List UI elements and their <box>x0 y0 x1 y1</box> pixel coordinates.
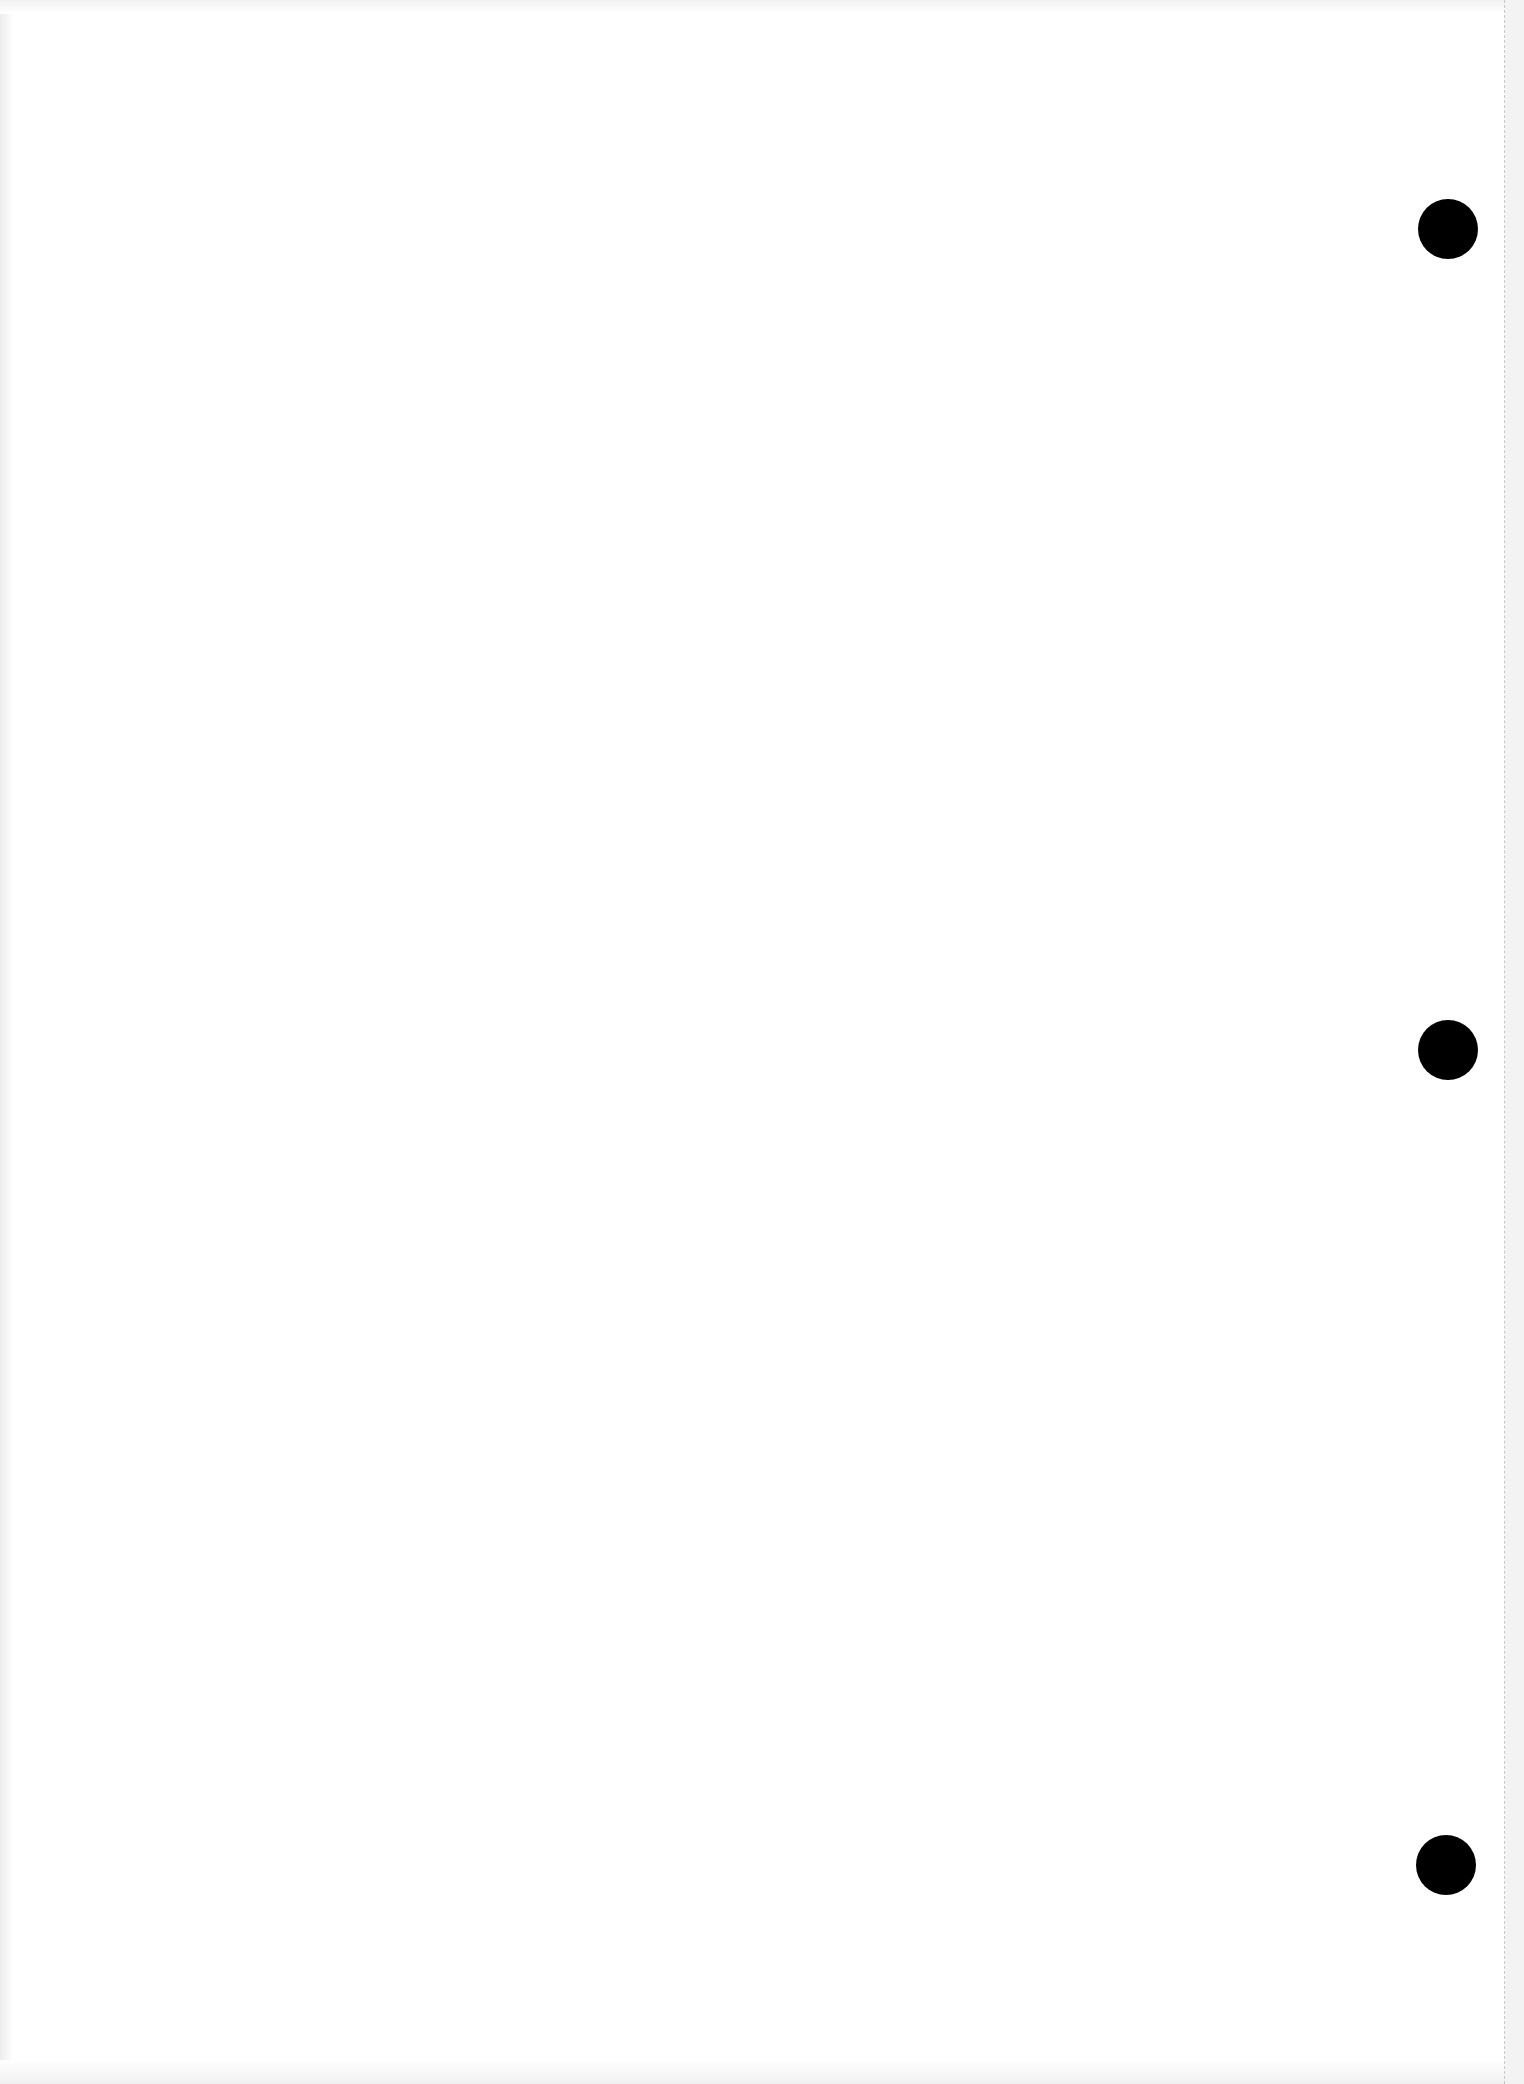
punch-hole-icon <box>1416 1835 1476 1895</box>
scan-bleed-bottom <box>0 2060 1524 2084</box>
right-margin-strip <box>1505 0 1524 2084</box>
blank-page <box>0 0 1524 2084</box>
punch-hole-icon <box>1418 199 1478 259</box>
scan-bleed-top <box>0 0 1524 14</box>
punch-hole-icon <box>1418 1020 1478 1080</box>
scan-edge-shadow <box>0 0 14 2084</box>
perforation-line <box>1504 0 1505 2084</box>
